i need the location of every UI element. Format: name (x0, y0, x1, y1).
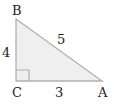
vertex-label-a: A (97, 85, 108, 100)
side-label-ab: 5 (57, 32, 65, 47)
vertex-label-c: C (12, 85, 22, 100)
triangle-diagram: B C A 4 5 3 (0, 0, 113, 104)
vertex-label-b: B (12, 3, 22, 18)
side-label-ca: 3 (55, 85, 63, 100)
side-label-bc: 4 (2, 45, 10, 60)
